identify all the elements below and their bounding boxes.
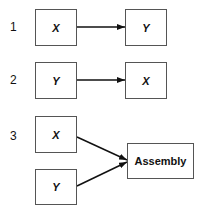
row-1-right-box: Y — [125, 9, 167, 46]
row-3-bottom-box: Y — [35, 169, 77, 205]
row-1-left-label: X — [52, 22, 59, 34]
assembly-box: Assembly — [127, 143, 194, 179]
row-2-left-box: Y — [35, 62, 77, 99]
row-number-1: 1 — [10, 21, 17, 33]
row-2-right-label: X — [142, 75, 149, 87]
row-3-bottom-label: Y — [52, 181, 59, 193]
row-number-3: 3 — [10, 130, 17, 142]
row-3-top-box: X — [35, 116, 77, 153]
row-number-2: 2 — [10, 74, 17, 86]
row-3-top-label: X — [52, 129, 59, 141]
row-2-right-box: X — [125, 62, 167, 99]
arrows-layer — [0, 0, 205, 215]
arrow-3-top — [77, 137, 127, 160]
row-2-left-label: Y — [52, 75, 59, 87]
row-1-left-box: X — [35, 9, 77, 46]
arrow-3-bottom — [77, 162, 127, 186]
row-1-right-label: Y — [142, 22, 149, 34]
assembly-label: Assembly — [135, 155, 187, 167]
